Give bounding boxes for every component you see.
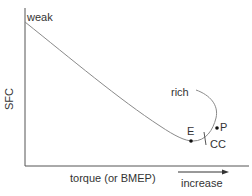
point-p-label: P xyxy=(220,122,227,133)
sfc-torque-chart xyxy=(0,0,252,196)
increase-label: increase xyxy=(181,178,223,189)
increase-arrow-head xyxy=(222,170,229,175)
point-p-marker xyxy=(215,126,219,130)
weak-label: weak xyxy=(27,12,53,23)
cc-label: CC xyxy=(210,139,226,150)
sfc-curve xyxy=(25,22,217,141)
x-axis-label: torque (or BMEP) xyxy=(70,173,156,184)
point-e-label: E xyxy=(187,126,194,137)
rich-label: rich xyxy=(171,87,189,98)
cc-tick-mark xyxy=(204,132,206,145)
y-axis-label: SFC xyxy=(4,88,15,110)
point-e-marker xyxy=(189,139,193,143)
